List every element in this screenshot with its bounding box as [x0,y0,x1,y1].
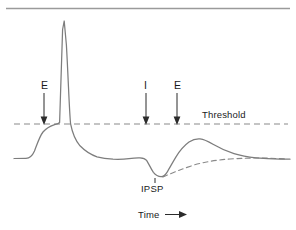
stimulus-label-e2: E [174,80,181,91]
time-axis-arrow-icon [165,211,187,218]
ipsp-alone-projection-curve [163,158,286,177]
ipsp-label: IPSP [141,184,163,194]
stimulus-label-i: I [144,80,147,91]
membrane-potential-trace [14,21,290,177]
stimulus-arrow-i [143,93,150,125]
stimulus-label-e1: E [41,80,48,91]
time-axis-label: Time [138,210,160,220]
stimulus-arrow-e2 [174,93,181,125]
neuron-summation-diagram: E I E Threshold IPSP Time [0,0,296,230]
diagram-canvas [0,0,296,230]
stimulus-arrow-e1 [41,93,48,125]
threshold-label: Threshold [202,110,246,120]
